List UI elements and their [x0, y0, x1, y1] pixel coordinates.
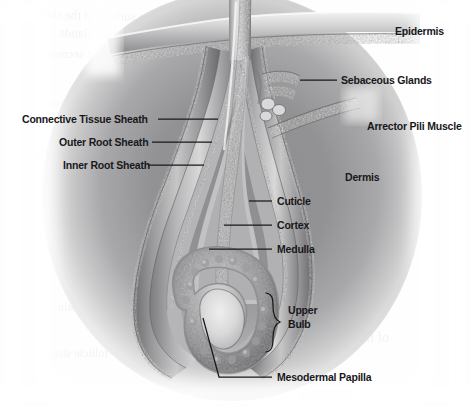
label-upper-bulb-line1: Upper	[288, 304, 317, 316]
label-arrector-pili-muscle: Arrector Pili Muscle	[367, 120, 462, 132]
label-epidermis: Epidermis	[395, 25, 444, 37]
label-upper-bulb-line2: Bulb	[288, 318, 311, 330]
label-medulla: Medulla	[277, 243, 315, 255]
label-mesodermal-papilla: Mesodermal Papilla	[277, 371, 371, 383]
label-outer-root-sheath: Outer Root Sheath	[59, 136, 148, 148]
label-connective-tissue-sheath: Connective Tissue Sheath	[22, 113, 148, 125]
label-sebaceous-glands: Sebaceous Glands	[341, 74, 432, 86]
figure-canvas: and the surface of the skinsebaceous and…	[0, 0, 470, 407]
label-dermis: Dermis	[345, 171, 379, 183]
label-inner-root-sheath: Inner Root Sheath	[63, 159, 150, 171]
hair-follicle-illustration	[0, 0, 470, 407]
label-cortex: Cortex	[277, 219, 309, 231]
label-cuticle: Cuticle	[277, 195, 311, 207]
